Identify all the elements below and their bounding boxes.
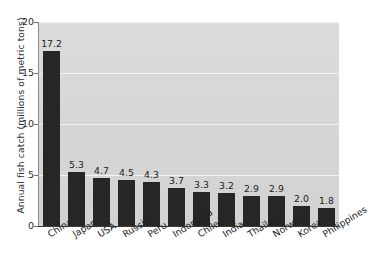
x-category-label: Japan xyxy=(71,217,98,239)
x-category-label: Philippines xyxy=(321,204,368,238)
x-category-label: Russia xyxy=(121,215,151,239)
x-category-label: USA xyxy=(96,221,117,239)
x-category-label: India xyxy=(221,219,245,239)
x-category-label: China xyxy=(46,217,73,239)
